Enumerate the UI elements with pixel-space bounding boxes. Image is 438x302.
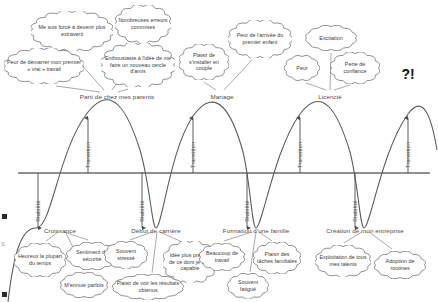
- milestone-famille: Formation d'une famille: [223, 227, 289, 234]
- leader-line: [152, 232, 157, 273]
- milestone-mariage: Mariage: [210, 93, 233, 100]
- thought-cloud-stresse: Souvent stressé: [104, 241, 148, 269]
- stability-label-3: Stabilité: [352, 178, 358, 222]
- cloud-text-perte: Perte de confiance: [333, 61, 377, 75]
- thought-cloud-excitation: Excitation: [305, 25, 357, 51]
- leader-line: [306, 83, 326, 90]
- cloud-text-stresse: Souvent stressé: [107, 248, 145, 262]
- stability-label-0: Stabilité: [35, 178, 41, 222]
- page-edge-letter: S: [1, 241, 5, 247]
- thought-cloud-heureux: Heureux la plupart du temps: [14, 243, 66, 277]
- cloud-text-ennuie: M'ennuie parfois: [64, 282, 103, 289]
- thought-cloud-enfant: Peur de l'arrivée du premier enfant: [228, 20, 292, 58]
- thought-cloud-peur: Peur: [284, 55, 320, 81]
- thought-cloud-perte: Perte de confiance: [330, 52, 380, 84]
- cloud-text-routines: Adoption de routines: [377, 258, 423, 272]
- milestone-carriere: Début de carrière: [131, 227, 181, 234]
- cloud-text-heureux: Heureux la plupart du temps: [17, 253, 63, 267]
- thought-cloud-peur-travail: Peur de démarrer mon premier « vrai » tr…: [4, 48, 84, 84]
- transition-label-3: Transition: [405, 122, 411, 168]
- leader-line: [334, 85, 350, 90]
- cloud-text-resultats: Plaisir de voir les résultats obtenus: [115, 280, 181, 294]
- thought-cloud-routines: Adoption de routines: [374, 251, 426, 279]
- stability-label-2: Stabilité: [244, 178, 250, 222]
- leader-line: [204, 82, 216, 90]
- milestone-entreprise: Création de mon entreprise: [326, 227, 404, 234]
- cloud-text-fatigue: Souvent fatigué: [230, 279, 266, 293]
- thought-cloud-ennuie: M'ennuie parfois: [60, 272, 108, 298]
- edge-mark-0: [2, 214, 7, 219]
- question-exclamation-marker: ?!: [401, 66, 414, 82]
- edge-mark-1: [2, 292, 7, 297]
- cloud-text-enfant: Peur de l'arrivée du premier enfant: [231, 32, 289, 46]
- stability-label-1: Stabilité: [139, 178, 145, 222]
- milestone-croissance: Croissance: [44, 227, 76, 234]
- cloud-text-erreurs: Nombreuses erreurs commises: [118, 17, 168, 31]
- transition-label-0: Transition: [85, 122, 91, 168]
- transition-label-2: Transition: [297, 122, 303, 168]
- thought-cloud-fatigue: Souvent fatigué: [227, 273, 269, 299]
- transition-label-1: Transition: [190, 122, 196, 168]
- thought-cloud-beaucoup: Beaucoup de travail: [199, 243, 245, 271]
- leader-line: [118, 89, 128, 92]
- thought-cloud-taches: Plaisir des tâches familiales: [253, 242, 301, 274]
- thought-cloud-enthousiaste: Enthousiaste à l'idée de me faire un nou…: [101, 43, 175, 87]
- cloud-text-taches: Plaisir des tâches familiales: [256, 251, 298, 265]
- cloud-text-enthousiaste: Enthousiaste à l'idée de me faire un nou…: [104, 55, 172, 76]
- cloud-text-peur: Peur: [296, 65, 307, 72]
- milestone-parents: Parti de chez mes parents: [80, 93, 154, 100]
- cloud-text-talents: Exploitation de tous mes talents: [318, 254, 368, 268]
- thought-cloud-erreurs: Nombreuses erreurs commises: [115, 5, 171, 43]
- thought-cloud-talents: Exploitation de tous mes talents: [315, 245, 371, 277]
- cloud-text-extraverti: Me suis forcé à devenir plus extraverti: [34, 24, 110, 38]
- cloud-text-excitation: Excitation: [319, 35, 342, 42]
- life-transitions-diagram: TransitionTransitionTransitionTransition…: [0, 0, 438, 302]
- thought-cloud-resultats: Plaisir de voir les résultats obtenus: [112, 274, 184, 300]
- cloud-text-couple: Plaisir de s'installer en couple: [182, 52, 226, 73]
- cloud-text-peur-travail: Peur de démarrer mon premier « vrai » tr…: [7, 59, 81, 73]
- milestone-licencie: Licencié: [318, 93, 342, 100]
- thought-cloud-couple: Plaisir de s'installer en couple: [179, 44, 229, 80]
- leader-line: [369, 232, 392, 249]
- leader-line: [56, 86, 100, 92]
- cloud-text-beaucoup: Beaucoup de travail: [202, 250, 242, 264]
